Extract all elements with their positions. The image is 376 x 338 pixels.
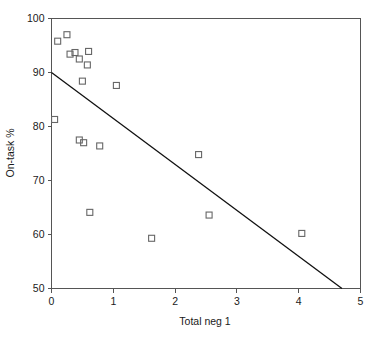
data-point-marker <box>113 82 119 88</box>
x-tick-label: 5 <box>358 295 364 307</box>
x-tick-label: 4 <box>296 295 302 307</box>
x-axis-tick-group: 012345 <box>49 289 364 307</box>
data-point-marker <box>299 230 305 236</box>
y-tick-label: 100 <box>27 12 45 24</box>
x-axis-title: Total neg 1 <box>179 315 231 327</box>
axis-frame <box>52 19 361 289</box>
data-point-marker <box>64 32 70 38</box>
data-point-marker <box>196 152 202 158</box>
y-tick-label: 90 <box>33 66 45 78</box>
data-point-marker <box>76 56 82 62</box>
data-point-group <box>52 32 305 242</box>
x-tick-label: 1 <box>110 295 116 307</box>
y-axis-tick-group: 5060708090100 <box>27 12 52 294</box>
data-point-marker <box>86 48 92 54</box>
y-tick-label: 70 <box>33 174 45 186</box>
plot-canvas: 5060708090100 012345 Total neg 1 On-task… <box>0 0 376 338</box>
regression-line-segment <box>52 73 342 289</box>
data-point-marker <box>84 62 90 68</box>
data-point-marker <box>79 78 85 84</box>
y-axis-title: On-task % <box>4 128 16 177</box>
scatter-plot-figure: 5060708090100 012345 Total neg 1 On-task… <box>0 0 376 338</box>
data-point-marker <box>97 143 103 149</box>
x-tick-label: 2 <box>172 295 178 307</box>
data-point-marker <box>87 209 93 215</box>
y-tick-label: 80 <box>33 120 45 132</box>
y-tick-label: 50 <box>33 282 45 294</box>
data-point-marker <box>149 235 155 241</box>
data-point-marker <box>52 116 58 122</box>
data-point-marker <box>206 212 212 218</box>
x-tick-label: 0 <box>49 295 55 307</box>
data-point-marker <box>55 38 61 44</box>
regression-line <box>52 73 342 289</box>
y-tick-label: 60 <box>33 228 45 240</box>
x-tick-label: 3 <box>234 295 240 307</box>
